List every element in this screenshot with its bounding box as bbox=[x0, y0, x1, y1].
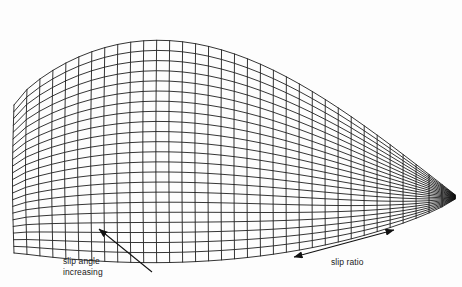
slip-angle-label: slip angleincreasing bbox=[63, 256, 103, 277]
mesh-path bbox=[13, 40, 456, 262]
wireframe-mesh bbox=[13, 40, 456, 262]
figure-container: slip angleincreasing slip ratio bbox=[0, 0, 462, 287]
surface-wireframe-plot bbox=[0, 0, 462, 287]
slip-ratio-label: slip ratio bbox=[331, 257, 364, 268]
slip-angle-label-line2: increasing bbox=[63, 267, 103, 277]
slip-angle-label-line1: slip angle bbox=[63, 256, 100, 266]
slip-angle-arrow bbox=[99, 229, 152, 272]
